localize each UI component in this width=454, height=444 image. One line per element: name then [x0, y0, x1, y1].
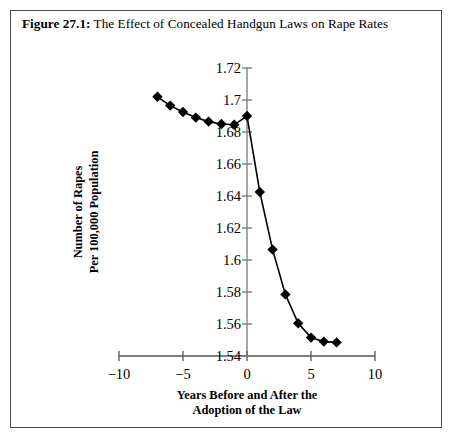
data-point-marker — [255, 187, 265, 197]
data-point-marker — [331, 337, 341, 347]
y-tick-label: 1.7 — [195, 92, 241, 109]
data-point-marker — [178, 107, 188, 117]
data-point-marker — [152, 92, 162, 102]
x-axis-label-line2: Adoption of the Law — [177, 403, 318, 418]
y-tick-label: 1.58 — [195, 284, 241, 301]
y-tick-label: 1.54 — [195, 348, 241, 365]
y-axis-label-line1: Number of Rapes — [71, 112, 87, 312]
x-axis-label: Years Before and After the Adoption of t… — [177, 388, 318, 418]
y-tick-label: 1.66 — [195, 156, 241, 173]
y-tick-label: 1.62 — [195, 220, 241, 237]
y-axis-label: Number of Rapes Per 100,000 Population — [71, 112, 102, 312]
y-tick-label: 1.56 — [195, 316, 241, 333]
data-point-marker — [165, 100, 175, 110]
x-tick-label: 0 — [243, 366, 250, 383]
data-point-marker — [280, 289, 290, 299]
data-point-marker — [319, 336, 329, 346]
x-tick-label: 5 — [307, 366, 314, 383]
y-tick-label: 1.6 — [195, 252, 241, 269]
x-tick-label: −5 — [175, 366, 190, 383]
data-point-marker — [267, 244, 277, 254]
data-point-marker — [191, 112, 201, 122]
x-tick-label: −10 — [108, 366, 131, 383]
x-axis-label-line1: Years Before and After the — [177, 388, 318, 403]
y-tick-label: 1.72 — [195, 60, 241, 77]
y-tick-label: 1.64 — [195, 188, 241, 205]
y-tick-label: 1.68 — [195, 124, 241, 141]
y-axis-label-line2: Per 100,000 Population — [86, 112, 102, 312]
x-tick-label: 10 — [368, 366, 383, 383]
data-point-marker — [242, 111, 252, 121]
